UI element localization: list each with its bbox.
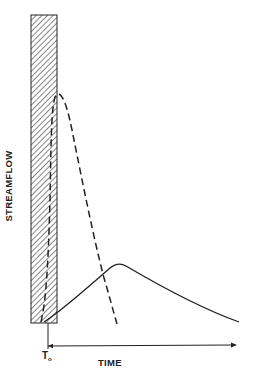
hatched-bar bbox=[31, 15, 57, 323]
x-axis-label: TIME bbox=[98, 357, 122, 368]
origin-label: To bbox=[42, 350, 52, 362]
time-axis-arrow bbox=[48, 343, 237, 349]
solid-hydrograph-curve bbox=[44, 264, 239, 322]
origin-label-subscript: o bbox=[48, 356, 52, 362]
hydrograph-diagram bbox=[0, 0, 253, 378]
y-axis-label: STREAMFLOW bbox=[3, 136, 17, 236]
